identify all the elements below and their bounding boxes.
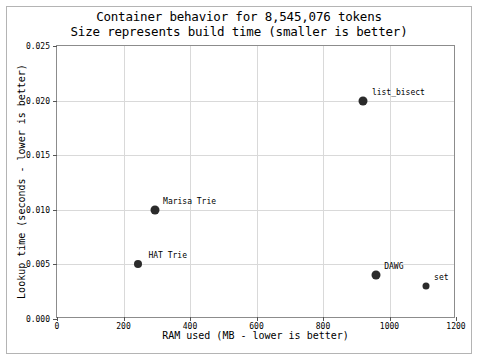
chart-figure: Container behavior for 8,545,076 tokens … bbox=[0, 0, 478, 360]
y-tick-label: 0.015 bbox=[26, 151, 50, 160]
data-point-label: Marisa Trie bbox=[163, 197, 216, 206]
data-point-label: list_bisect bbox=[372, 88, 425, 97]
x-tick-mark bbox=[390, 317, 391, 321]
x-tick-mark bbox=[257, 317, 258, 321]
y-tick-mark bbox=[53, 155, 57, 156]
data-point-label: DAWG bbox=[384, 262, 403, 271]
data-point[interactable] bbox=[358, 96, 367, 105]
y-tick-mark bbox=[53, 210, 57, 211]
chart-subtitle: Size represents build time (smaller is b… bbox=[0, 24, 478, 39]
x-gridline bbox=[323, 46, 324, 317]
y-axis-label: Lookup time (seconds - lower is better) bbox=[14, 45, 28, 318]
chart-title-block: Container behavior for 8,545,076 tokens … bbox=[0, 9, 478, 39]
data-point-label: HAT Trie bbox=[148, 251, 187, 260]
x-tick-mark bbox=[57, 317, 58, 321]
y-gridline bbox=[57, 210, 454, 211]
y-tick-mark bbox=[53, 46, 57, 47]
x-gridline bbox=[257, 46, 258, 317]
y-tick-label: 0.000 bbox=[26, 315, 50, 324]
x-gridline bbox=[190, 46, 191, 317]
x-tick-mark bbox=[323, 317, 324, 321]
data-point[interactable] bbox=[423, 283, 430, 290]
x-gridline bbox=[124, 46, 125, 317]
y-tick-label: 0.010 bbox=[26, 205, 50, 214]
y-tick-label: 0.025 bbox=[26, 42, 50, 51]
y-tick-mark bbox=[53, 264, 57, 265]
y-gridline bbox=[57, 155, 454, 156]
y-tick-label: 0.020 bbox=[26, 96, 50, 105]
x-tick-mark bbox=[456, 317, 457, 321]
y-axis-label-text: Lookup time (seconds - lower is better) bbox=[16, 64, 27, 299]
data-point[interactable] bbox=[151, 205, 160, 214]
y-tick-mark bbox=[53, 101, 57, 102]
x-tick-mark bbox=[190, 317, 191, 321]
chart-title: Container behavior for 8,545,076 tokens bbox=[0, 9, 478, 24]
x-axis-label: RAM used (MB - lower is better) bbox=[56, 330, 455, 341]
y-tick-mark bbox=[53, 319, 57, 320]
x-tick-mark bbox=[124, 317, 125, 321]
plot-area: 0200400600800100012000.0000.0050.0100.01… bbox=[56, 45, 455, 318]
y-tick-label: 0.005 bbox=[26, 260, 50, 269]
y-gridline bbox=[57, 101, 454, 102]
data-point[interactable] bbox=[372, 271, 381, 280]
data-point[interactable] bbox=[134, 260, 142, 268]
data-point-label: set bbox=[434, 273, 448, 282]
